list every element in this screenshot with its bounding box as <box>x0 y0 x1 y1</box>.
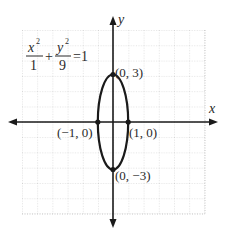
x-axis-left-arrow-icon <box>8 119 17 126</box>
y-axis-down-arrow-icon <box>110 219 117 228</box>
x-axis-right-arrow-icon <box>209 119 218 126</box>
point-label-top: (0, 3) <box>115 65 143 80</box>
point-right <box>126 119 131 124</box>
y-axis-label: y <box>116 12 125 27</box>
eq-plus: + <box>45 49 53 64</box>
point-left <box>95 119 100 124</box>
graph-canvas: y x (0, 3) (0, −3) (−1, 0) (1, 0) x 2 1 … <box>0 0 226 237</box>
eq-x-exp: 2 <box>36 37 40 46</box>
eq-y-exp: 2 <box>65 37 69 46</box>
x-axis-label: x <box>208 101 216 116</box>
y-axis-up-arrow-icon <box>110 16 117 25</box>
eq-y: y <box>55 40 64 55</box>
point-label-bottom: (0, −3) <box>115 168 151 183</box>
eq-x: x <box>27 40 35 55</box>
eq-x-den: 1 <box>30 58 37 73</box>
eq-y-den: 9 <box>59 58 66 73</box>
point-label-left: (−1, 0) <box>57 125 93 140</box>
eq-equals: =1 <box>73 49 88 64</box>
point-label-right: (1, 0) <box>129 125 157 140</box>
